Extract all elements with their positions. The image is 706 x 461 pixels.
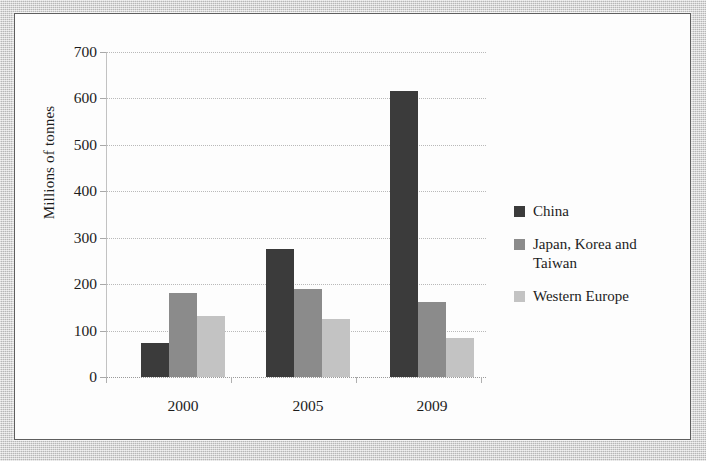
plot-area: 0100200300400500600700 200020052009 bbox=[106, 52, 486, 377]
x-axis-label-2000: 2000 bbox=[168, 397, 199, 415]
y-axis-title: Millions of tonnes bbox=[41, 83, 58, 243]
y-axis-label-500: 500 bbox=[74, 135, 97, 153]
y-axis-tick-700 bbox=[100, 52, 106, 53]
bar-chart: Millions of tonnes 010020030040050060070… bbox=[15, 14, 690, 439]
legend-item-2: Western Europe bbox=[514, 287, 684, 306]
bar-2005-series-0 bbox=[266, 249, 294, 377]
y-axis-label-300: 300 bbox=[74, 228, 97, 246]
x-axis-tick-3 bbox=[481, 377, 482, 383]
x-axis-tick-2 bbox=[356, 377, 357, 383]
bar-2009-series-1 bbox=[418, 302, 446, 377]
bar-group-2000 bbox=[141, 52, 225, 377]
bar-2009-series-2 bbox=[446, 338, 474, 377]
legend-label-1: Japan, Korea and Taiwan bbox=[533, 235, 684, 273]
y-axis-label-100: 100 bbox=[74, 321, 97, 339]
y-axis-tick-100 bbox=[100, 331, 106, 332]
gridline-0 bbox=[106, 377, 486, 378]
y-axis-label-600: 600 bbox=[74, 89, 97, 107]
figure-panel: Millions of tonnes 010020030040050060070… bbox=[14, 13, 691, 440]
legend-item-1: Japan, Korea and Taiwan bbox=[514, 235, 684, 273]
x-axis-label-2005: 2005 bbox=[293, 397, 324, 415]
y-axis-label-200: 200 bbox=[74, 275, 97, 293]
bar-2005-series-2 bbox=[322, 319, 350, 377]
y-axis-tick-300 bbox=[100, 238, 106, 239]
legend-swatch-icon-1 bbox=[514, 239, 525, 250]
legend-swatch-icon-2 bbox=[514, 291, 525, 302]
legend-swatch-icon-0 bbox=[514, 206, 525, 217]
plot-frame: 0100200300400500600700 200020052009 bbox=[106, 52, 486, 377]
bar-group-2005 bbox=[266, 52, 350, 377]
y-axis-tick-600 bbox=[100, 98, 106, 99]
y-axis-tick-500 bbox=[100, 145, 106, 146]
bar-2005-series-1 bbox=[294, 289, 322, 377]
y-axis-label-700: 700 bbox=[74, 43, 97, 61]
legend-item-0: China bbox=[514, 202, 684, 221]
bar-2000-series-1 bbox=[169, 293, 197, 378]
bar-2000-series-0 bbox=[141, 343, 169, 377]
y-axis-tick-200 bbox=[100, 284, 106, 285]
legend-label-2: Western Europe bbox=[533, 287, 629, 306]
legend-label-0: China bbox=[533, 202, 569, 221]
x-axis-tick-1 bbox=[231, 377, 232, 383]
bar-group-2009 bbox=[390, 52, 474, 377]
scanned-page: Millions of tonnes 010020030040050060070… bbox=[0, 0, 706, 461]
y-axis-label-400: 400 bbox=[74, 182, 97, 200]
y-axis-label-0: 0 bbox=[89, 368, 97, 386]
x-axis-label-2009: 2009 bbox=[417, 397, 448, 415]
y-axis-tick-400 bbox=[100, 191, 106, 192]
bar-2000-series-2 bbox=[197, 316, 225, 377]
y-axis-line bbox=[106, 52, 107, 377]
chart-legend: ChinaJapan, Korea and TaiwanWestern Euro… bbox=[514, 202, 684, 320]
bar-2009-series-0 bbox=[390, 91, 418, 377]
x-axis-tick-0 bbox=[106, 377, 107, 383]
